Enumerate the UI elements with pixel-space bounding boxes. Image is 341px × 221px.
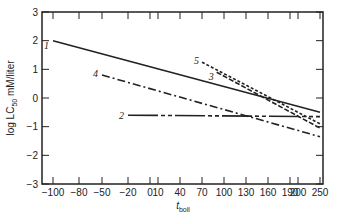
- y-tick-label: −3: [27, 179, 39, 190]
- x-tick-label: 100: [216, 187, 233, 198]
- series-label-5: 5: [194, 55, 199, 66]
- y-axis-title: log LC50 mM/liter: [5, 60, 18, 136]
- data-series: [53, 41, 320, 137]
- x-tick-label: 40: [174, 187, 186, 198]
- x-tick-label: −80: [71, 187, 88, 198]
- x-tick-label: 130: [238, 187, 255, 198]
- x-tick-label: 200: [290, 187, 307, 198]
- x-tick-label: −50: [94, 187, 111, 198]
- series-labels: 12345: [44, 40, 214, 122]
- series-label-1: 1: [44, 40, 49, 51]
- y-tick-label: 0: [32, 93, 38, 104]
- y-tick-label: −2: [27, 150, 39, 161]
- series-label-2: 2: [119, 110, 124, 121]
- x-tick-label: −100: [42, 187, 65, 198]
- x-tick-label: 70: [196, 187, 208, 198]
- y-tick-label: 3: [32, 7, 38, 18]
- series-line-3: [217, 72, 320, 128]
- x-tick-label: 10: [152, 187, 164, 198]
- x-tick-label: −20: [120, 187, 137, 198]
- x-tick-label: 160: [260, 187, 277, 198]
- series-line-5: [202, 62, 320, 124]
- series-line-2: [128, 115, 320, 116]
- y-tick-label: 2: [32, 35, 38, 46]
- x-axis-title: tboil: [176, 200, 190, 213]
- series-label-3: 3: [208, 71, 214, 82]
- y-tick-label: 1: [32, 64, 38, 75]
- x-tick-label: 250: [312, 187, 329, 198]
- y-tick-label: −1: [27, 121, 39, 132]
- chart: −100−80−50−20010407010013016019020025032…: [0, 0, 341, 221]
- series-label-4: 4: [93, 68, 98, 79]
